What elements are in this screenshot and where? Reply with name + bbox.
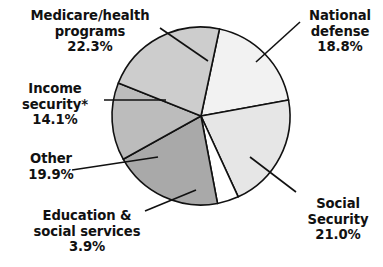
slice-label-medicare: Medicare/health programs 22.3% xyxy=(14,8,166,55)
slice-label-social-security: Social Security 21.0% xyxy=(296,196,380,243)
leader-line-defense xyxy=(256,22,300,62)
slice-label-national-defense-line1: National xyxy=(300,8,380,24)
slice-label-education: Education & social services 3.9% xyxy=(14,208,160,255)
slice-label-national-defense-value: 18.8% xyxy=(300,39,380,55)
slice-label-income-security: Income security* 14.1% xyxy=(6,81,104,128)
slice-label-income-security-line1: Income xyxy=(6,81,104,97)
slice-label-education-line1: Education & xyxy=(14,208,160,224)
slice-label-other-line1: Other xyxy=(12,151,90,167)
slice-label-education-value: 3.9% xyxy=(14,239,160,255)
slice-label-education-line2: social services xyxy=(14,224,160,240)
slice-label-social-security-value: 21.0% xyxy=(296,227,380,243)
slice-label-medicare-line2: programs xyxy=(14,24,166,40)
slice-label-medicare-line1: Medicare/health xyxy=(14,8,166,24)
slice-label-social-security-line2: Security xyxy=(296,212,380,228)
slice-label-income-security-line2: security* xyxy=(6,97,104,113)
slice-label-social-security-line1: Social xyxy=(296,196,380,212)
slice-label-income-security-value: 14.1% xyxy=(6,112,104,128)
slice-label-medicare-value: 22.3% xyxy=(14,39,166,55)
pie-chart-figure: Medicare/health programs 22.3% National … xyxy=(0,0,383,267)
slice-label-other-value: 19.9% xyxy=(12,167,90,183)
slice-label-other: Other 19.9% xyxy=(12,151,90,182)
slice-label-national-defense: National defense 18.8% xyxy=(300,8,380,55)
slice-label-national-defense-line2: defense xyxy=(300,24,380,40)
